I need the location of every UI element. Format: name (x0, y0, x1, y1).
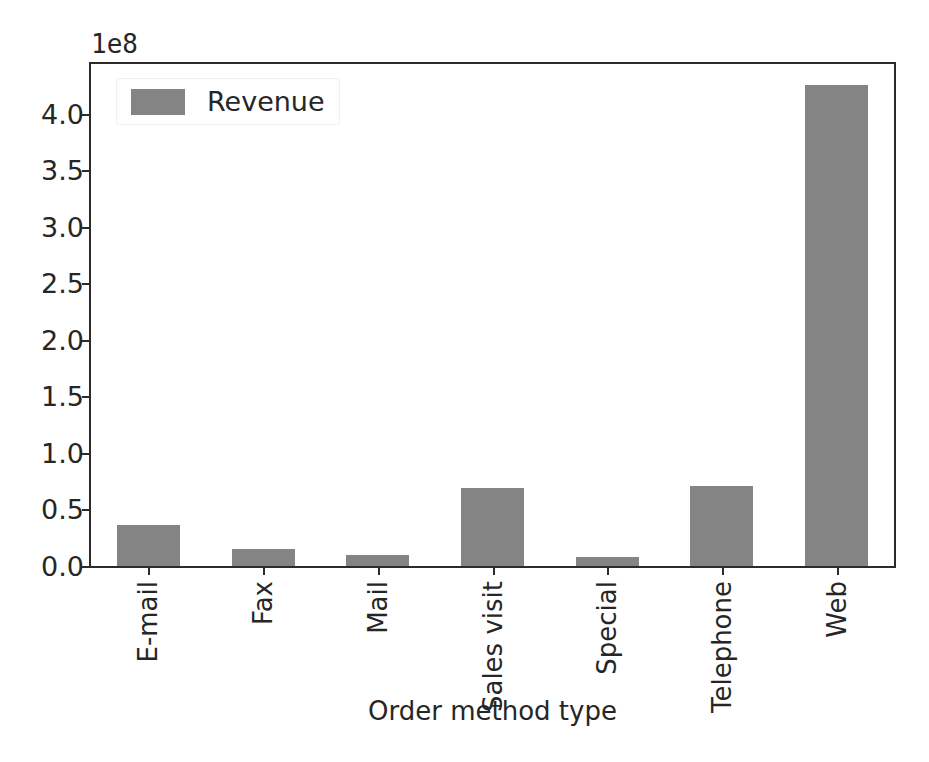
x-tick-mark (378, 566, 380, 575)
x-tick-label: E-mail (135, 581, 161, 663)
y-tick-label: 2.5 (41, 270, 84, 297)
x-axis-title: Order method type (89, 697, 896, 725)
x-tick-mark (837, 566, 839, 575)
y-tick-label: 3.0 (41, 213, 84, 240)
bar-fax (232, 549, 295, 566)
x-tick-mark (722, 566, 724, 575)
bar-special (576, 557, 639, 566)
figure-canvas: 1e8 0.00.51.01.52.02.53.03.54.0 E-mailFa… (0, 0, 929, 762)
y-tick-label: 1.0 (41, 439, 84, 466)
y-tick-label: 4.0 (41, 100, 84, 127)
x-tick-mark (148, 566, 150, 575)
chart-legend: Revenue (116, 78, 340, 125)
x-tick-label: Sales visit (480, 581, 506, 712)
y-tick-label: 0.0 (41, 553, 84, 580)
y-axis-offset-text: 1e8 (91, 30, 138, 58)
x-tick-label: Telephone (709, 581, 735, 713)
bar-web (805, 85, 868, 566)
bar-mail (346, 555, 409, 566)
x-tick-label: Mail (365, 581, 391, 634)
legend-label-revenue: Revenue (207, 88, 325, 115)
x-tick-label: Web (824, 581, 850, 638)
plot-axes: 0.00.51.01.52.02.53.03.54.0 E-mailFaxMai… (89, 62, 896, 568)
x-tick-label: Fax (250, 581, 276, 625)
x-tick-mark (493, 566, 495, 575)
x-tick-mark (263, 566, 265, 575)
bar-telephone (690, 486, 753, 566)
y-tick-label: 1.5 (41, 383, 84, 410)
y-tick-label: 0.5 (41, 496, 84, 523)
plot-area (91, 64, 894, 566)
legend-swatch-revenue (131, 89, 185, 115)
bar-sales-visit (461, 488, 524, 566)
x-tick-mark (607, 566, 609, 575)
y-tick-label: 2.0 (41, 326, 84, 353)
x-tick-label: Special (594, 581, 620, 675)
y-tick-label: 3.5 (41, 157, 84, 184)
bar-e-mail (117, 525, 180, 566)
